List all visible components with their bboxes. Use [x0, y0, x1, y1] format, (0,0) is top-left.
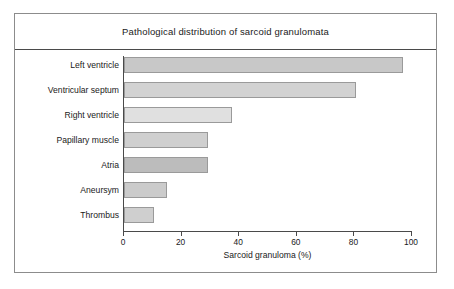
bar-row: Right ventricle [15, 107, 436, 123]
bar-category-label: Ventricular septum [48, 85, 119, 95]
bar [124, 182, 167, 198]
bar-category-label: Atria [101, 160, 119, 170]
bar [124, 107, 232, 123]
bar-category-label: Right ventricle [65, 110, 119, 120]
page-title: Pathological distribution of sarcoid gra… [122, 26, 329, 37]
bar-category-label: Left ventricle [70, 60, 119, 70]
chart-title-band: Pathological distribution of sarcoid gra… [15, 14, 436, 50]
x-tick [296, 232, 297, 236]
bar-category-label: Thrombus [80, 210, 119, 220]
bar [124, 157, 208, 173]
bar [124, 57, 403, 73]
bar-row: Atria [15, 157, 436, 173]
x-tick [238, 232, 239, 236]
chart-figure: Pathological distribution of sarcoid gra… [14, 13, 437, 273]
x-tick-label: 0 [121, 237, 126, 247]
plot-area: Left ventricleVentricular septumRight ve… [15, 51, 436, 272]
bar [124, 132, 208, 148]
x-tick [181, 232, 182, 236]
bar-row: Aneursym [15, 182, 436, 198]
bar-row: Left ventricle [15, 57, 436, 73]
x-axis-line [123, 231, 412, 232]
x-tick-label: 60 [291, 237, 300, 247]
x-tick-label: 100 [404, 237, 418, 247]
bar [124, 207, 154, 223]
x-tick-label: 40 [234, 237, 243, 247]
bar-row: Papillary muscle [15, 132, 436, 148]
x-tick-label: 20 [176, 237, 185, 247]
bar-row: Thrombus [15, 207, 436, 223]
x-tick [123, 232, 124, 236]
bar [124, 82, 356, 98]
x-tick [353, 232, 354, 236]
x-tick-label: 80 [349, 237, 358, 247]
x-axis-title: Sarcoid granuloma (%) [123, 250, 412, 260]
x-tick [411, 232, 412, 236]
bar-category-label: Papillary muscle [56, 135, 119, 145]
bar-row: Ventricular septum [15, 82, 436, 98]
bar-category-label: Aneursym [80, 185, 119, 195]
